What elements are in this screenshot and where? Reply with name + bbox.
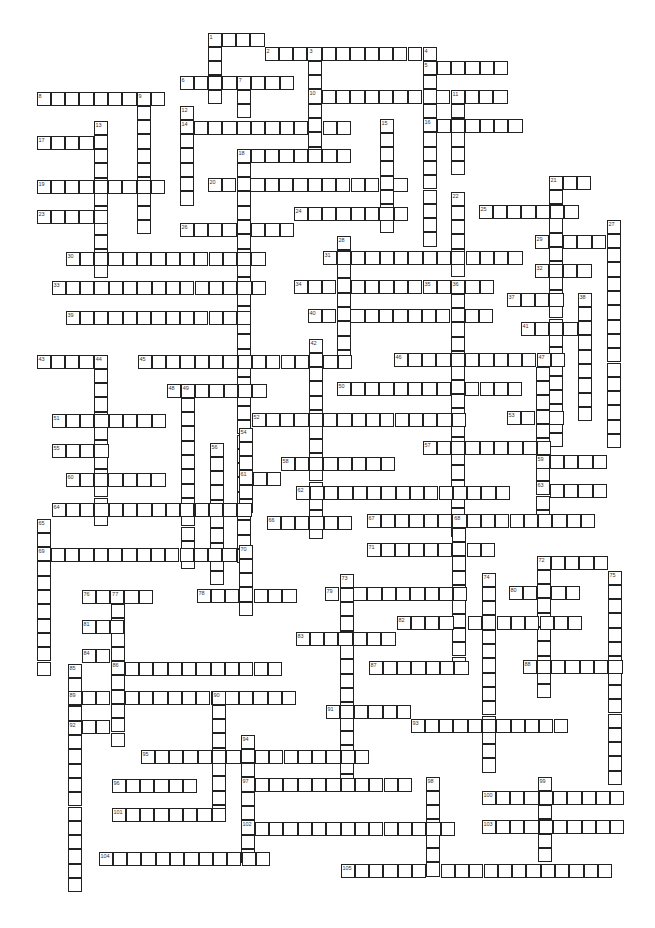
grid-cell[interactable] <box>393 178 407 192</box>
grid-cell[interactable] <box>239 559 253 573</box>
grid-cell[interactable] <box>409 514 423 528</box>
grid-cell[interactable] <box>180 148 194 162</box>
grid-cell[interactable] <box>151 311 165 325</box>
grid-cell[interactable] <box>196 691 210 705</box>
grid-cell[interactable] <box>451 308 465 322</box>
grid-cell[interactable] <box>180 281 194 295</box>
grid-cell[interactable] <box>137 180 151 194</box>
grid-cell[interactable] <box>423 147 437 161</box>
grid-cell[interactable] <box>283 778 297 792</box>
grid-cell[interactable] <box>607 434 621 448</box>
grid-cell[interactable] <box>109 503 123 517</box>
grid-cell[interactable] <box>308 207 322 221</box>
grid-cell[interactable] <box>607 405 621 419</box>
grid-cell[interactable] <box>408 353 422 367</box>
grid-cell[interactable]: 63 <box>536 481 550 495</box>
grid-cell[interactable] <box>152 414 166 428</box>
grid-cell[interactable] <box>538 848 552 862</box>
grid-cell[interactable]: 23 <box>37 210 51 224</box>
grid-cell[interactable] <box>525 719 539 733</box>
grid-cell[interactable] <box>212 762 226 776</box>
grid-cell[interactable] <box>526 864 540 878</box>
grid-cell[interactable] <box>237 206 251 220</box>
grid-cell[interactable] <box>497 616 511 630</box>
grid-cell[interactable] <box>308 280 322 294</box>
grid-cell[interactable] <box>168 691 182 705</box>
grid-cell[interactable] <box>437 61 451 75</box>
grid-cell[interactable] <box>536 410 550 424</box>
grid-cell[interactable] <box>607 420 621 434</box>
grid-cell[interactable] <box>423 251 437 265</box>
grid-cell[interactable]: 103 <box>482 820 496 834</box>
grid-cell[interactable] <box>79 210 93 224</box>
grid-cell[interactable] <box>94 163 108 177</box>
grid-cell[interactable] <box>293 178 307 192</box>
grid-cell[interactable] <box>37 633 51 647</box>
grid-cell[interactable] <box>578 307 592 321</box>
grid-cell[interactable] <box>383 661 397 675</box>
grid-cell[interactable] <box>140 779 154 793</box>
grid-cell[interactable] <box>294 149 308 163</box>
grid-cell[interactable] <box>536 205 550 219</box>
grid-cell[interactable] <box>381 543 395 557</box>
grid-cell[interactable]: 88 <box>523 660 537 674</box>
grid-cell[interactable] <box>108 548 122 562</box>
grid-cell[interactable]: 5 <box>423 61 437 75</box>
grid-cell[interactable] <box>437 251 451 265</box>
grid-cell[interactable] <box>68 749 82 763</box>
grid-cell[interactable] <box>181 469 195 483</box>
grid-cell[interactable] <box>426 834 440 848</box>
grid-cell[interactable] <box>237 191 251 205</box>
grid-cell[interactable] <box>94 397 108 411</box>
grid-cell[interactable] <box>227 852 241 866</box>
grid-cell[interactable] <box>607 363 621 377</box>
grid-cell[interactable] <box>480 119 494 133</box>
grid-cell[interactable] <box>125 691 139 705</box>
grid-cell[interactable] <box>582 820 596 834</box>
grid-cell[interactable] <box>423 218 437 232</box>
grid-cell[interactable] <box>237 220 251 234</box>
grid-cell[interactable] <box>108 92 122 106</box>
grid-cell[interactable] <box>380 413 394 427</box>
grid-cell[interactable] <box>65 180 79 194</box>
grid-cell[interactable]: 32 <box>535 264 549 278</box>
grid-cell[interactable] <box>423 89 437 103</box>
grid-cell[interactable] <box>350 47 364 61</box>
grid-cell[interactable] <box>309 396 323 410</box>
grid-cell[interactable] <box>180 311 194 325</box>
grid-cell[interactable] <box>550 455 564 469</box>
grid-cell[interactable] <box>553 820 567 834</box>
grid-cell[interactable] <box>353 632 367 646</box>
grid-cell[interactable] <box>607 291 621 305</box>
grid-cell[interactable] <box>452 599 466 613</box>
grid-cell[interactable] <box>396 587 410 601</box>
grid-cell[interactable]: 53 <box>507 411 521 425</box>
grid-cell[interactable]: 84 <box>82 649 96 663</box>
grid-cell[interactable] <box>182 662 196 676</box>
grid-cell[interactable] <box>336 47 350 61</box>
grid-cell[interactable] <box>122 548 136 562</box>
grid-cell[interactable] <box>549 264 563 278</box>
grid-cell[interactable] <box>465 280 479 294</box>
grid-cell[interactable] <box>482 601 496 615</box>
grid-cell[interactable] <box>453 587 467 601</box>
grid-cell[interactable] <box>521 411 535 425</box>
grid-cell[interactable] <box>223 503 237 517</box>
grid-cell[interactable] <box>308 104 322 118</box>
grid-cell[interactable] <box>223 281 237 295</box>
grid-cell[interactable] <box>355 750 369 764</box>
grid-cell[interactable] <box>123 281 137 295</box>
grid-cell[interactable]: 35 <box>423 280 437 294</box>
grid-cell[interactable] <box>68 878 82 892</box>
grid-cell[interactable] <box>166 252 180 266</box>
grid-cell[interactable] <box>440 661 454 675</box>
grid-cell[interactable] <box>610 820 624 834</box>
grid-cell[interactable]: 87 <box>369 661 383 675</box>
grid-cell[interactable]: 99 <box>538 777 552 791</box>
grid-cell[interactable] <box>94 414 108 428</box>
grid-cell[interactable] <box>496 820 510 834</box>
grid-cell[interactable] <box>169 779 183 793</box>
grid-cell[interactable] <box>340 705 354 719</box>
grid-cell[interactable]: 62 <box>296 486 310 500</box>
grid-cell[interactable] <box>351 280 365 294</box>
